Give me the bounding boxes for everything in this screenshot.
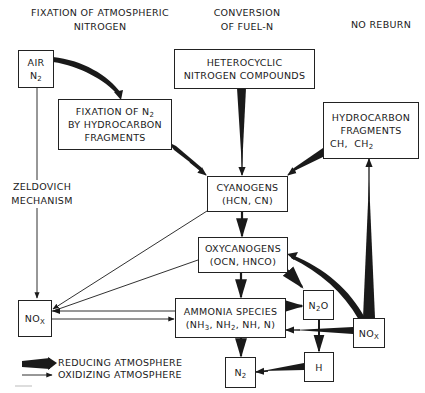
arrow-h-to-n2	[262, 363, 304, 371]
legend-reducing-label: REDUCING ATMOSPHERE	[58, 357, 182, 368]
heterocyclic-line1: HETEROCYCLIC	[207, 56, 283, 69]
legend-reducing-arrow	[22, 358, 50, 369]
cyanogens-line1: CYANOGENS	[217, 181, 279, 194]
legend-oxidizing-label: OXIDIZING ATMOSPHERE	[58, 369, 182, 380]
n2o-label: N2O	[309, 299, 329, 312]
arrow-nox-right-to-hydrocarbon	[363, 180, 375, 318]
arrow-cyanogens-to-nox	[53, 211, 207, 309]
ammonia-line1: AMMONIA SPECIES	[184, 305, 278, 318]
node-air-n2: AIR N2	[18, 50, 54, 88]
heterocyclic-line2: NITROGEN COMPOUNDS	[184, 69, 306, 82]
arrow-nox-right-to-ammonia	[295, 327, 353, 334]
zeldovich-line1: ZELDOVICH	[8, 180, 76, 194]
node-nox-left: NOX	[18, 300, 52, 337]
node-ammonia-species: AMMONIA SPECIES (NH3, NH2, NH, N)	[175, 298, 286, 338]
oxycanogens-line2: (OCN, HNCO)	[210, 255, 276, 268]
arrow-air-to-fixation	[53, 57, 121, 95]
node-cyanogens: CYANOGENS (HCN, CN)	[207, 176, 288, 212]
node-hydrocarbon-fragments: HYDROCARBON FRAGMENTS CH, CH2	[323, 102, 419, 159]
h-label: H	[315, 361, 322, 374]
fixation-line3: FRAGMENTS	[84, 131, 145, 144]
node-heterocyclic-nitrogen-compounds: HETEROCYCLIC NITROGEN COMPOUNDS	[174, 49, 315, 89]
air-label: AIR	[28, 56, 45, 69]
fixation-line2: BY HYDROCARBON	[68, 118, 162, 131]
hydrocarbon-line1: HYDROCARBON	[332, 111, 410, 124]
oxycanogens-line1: OXYCANOGENS	[205, 242, 281, 255]
n2-label: N2	[30, 69, 42, 82]
node-n2o: N2O	[303, 290, 334, 320]
node-n2: N2	[225, 357, 256, 388]
arrow-oxycanogens-to-n2o	[287, 270, 302, 287]
hydrocarbon-line2: FRAGMENTS	[340, 124, 401, 137]
cyanogens-line2: (HCN, CN)	[222, 194, 273, 207]
node-nox-right: NOX	[353, 318, 385, 348]
arrow-fixation-to-cyanogens	[168, 142, 202, 170]
zeldovich-mechanism-label: ZELDOVICH MECHANISM	[8, 180, 76, 208]
fixation-line1: FIXATION OF N2	[76, 105, 154, 118]
node-oxycanogens: OXYCANOGENS (OCN, HNCO)	[198, 237, 288, 273]
nox-left-label: NOX	[25, 312, 45, 325]
zeldovich-line2: MECHANISM	[8, 194, 76, 208]
ammonia-line2: (NH3, NH2, NH, N)	[186, 318, 275, 331]
hydrocarbon-line3: CH, CH2	[324, 137, 374, 150]
node-fixation-by-hydrocarbon: FIXATION OF N2 BY HYDROCARBON FRAGMENTS	[58, 99, 172, 150]
nox-right-label: NOX	[359, 327, 379, 340]
n2-product-label: N2	[234, 366, 246, 379]
node-h: H	[304, 352, 334, 382]
